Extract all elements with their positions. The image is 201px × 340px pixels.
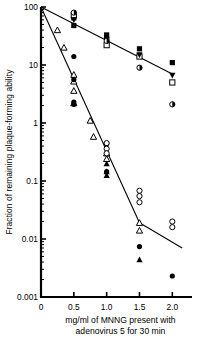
data-point-filled-circle [71, 77, 76, 82]
figure-container: 1001010.10.010.00100.51.01.52.0Fraction … [0, 0, 201, 340]
data-point-open-circle [137, 188, 142, 193]
data-point-open-circle [137, 193, 142, 198]
x-tick-label: 2.0 [166, 302, 178, 312]
x-tick-label: 1.5 [134, 302, 146, 312]
data-point-filled-circle [71, 54, 76, 59]
y-tick-label: 0.1 [26, 176, 38, 186]
data-point-filled-square [170, 60, 175, 65]
data-point-open-circle [170, 219, 175, 224]
data-point-open-triangle [136, 220, 142, 226]
data-point-filled-circle [71, 102, 76, 107]
x-tick-label: 0 [39, 302, 44, 312]
x-tick-label: 0.5 [68, 302, 80, 312]
data-point-open-circle [104, 141, 109, 146]
x-tick-label: 1.0 [101, 302, 113, 312]
y-axis-title: Fraction of remaining plaque-forming abi… [4, 69, 14, 235]
data-point-open-square [170, 80, 175, 85]
y-tick-label: 1 [33, 118, 38, 128]
scatter-plot: 1001010.10.010.00100.51.01.52.0Fraction … [0, 0, 201, 340]
data-point-filled-triangle [136, 257, 142, 263]
x-axis-title-line1: mg/ml of MNNG present with [65, 315, 176, 325]
data-point-open-circle [137, 200, 142, 205]
data-point-open-triangle [71, 88, 77, 94]
data-point-filled-circle [137, 244, 142, 249]
y-tick-label: 100 [24, 2, 38, 12]
y-tick-label: 10 [29, 60, 39, 70]
data-point-open-triangle [90, 134, 96, 140]
x-axis-title-line2: adenovirus 5 for 30 min [76, 326, 166, 336]
y-tick-label: 0.001 [17, 292, 38, 302]
data-point-open-triangle [54, 27, 60, 33]
data-point-filled-circle [104, 169, 109, 174]
data-point-open-triangle [136, 227, 142, 233]
data-point-filled-square [137, 46, 142, 51]
data-point-open-circle [170, 225, 175, 230]
data-point-filled-circle [170, 273, 175, 278]
data-point-filled-triangle-down [169, 73, 175, 79]
trend-line-sensitive-line-tail [139, 223, 182, 248]
y-tick-label: 0.01 [22, 234, 39, 244]
data-point-filled-square [71, 23, 76, 28]
trend-line-sensitive-line [41, 7, 139, 223]
data-point-open-circle [104, 151, 109, 156]
data-point-open-triangle [61, 44, 67, 50]
